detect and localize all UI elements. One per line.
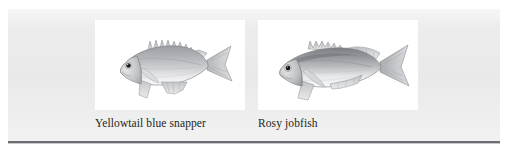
specimen-card-yellowtail-blue-snapper: Yellowtail blue snapper xyxy=(95,20,245,110)
caudal-fin xyxy=(207,46,232,81)
specimen-image-frame xyxy=(95,20,245,110)
figure-plate-background xyxy=(8,9,500,143)
specimen-image-frame xyxy=(258,20,418,110)
eye-pupil xyxy=(126,63,131,68)
eye-highlight xyxy=(287,66,288,67)
eye-highlight xyxy=(127,64,128,65)
figure-bottom-rule-shadow xyxy=(8,143,500,144)
figure-container: Yellowtail blue snapper xyxy=(0,0,512,159)
caudal-fin xyxy=(380,45,409,86)
rosy-jobfish-illustration xyxy=(258,20,418,110)
yellowtail-blue-snapper-illustration xyxy=(95,20,245,110)
specimen-label-rosy-jobfish: Rosy jobfish xyxy=(258,116,318,130)
specimen-label-yellowtail-blue-snapper: Yellowtail blue snapper xyxy=(95,116,206,130)
specimen-card-rosy-jobfish: Rosy jobfish xyxy=(258,20,418,110)
fish-head xyxy=(120,56,141,84)
eye-pupil xyxy=(286,66,291,71)
